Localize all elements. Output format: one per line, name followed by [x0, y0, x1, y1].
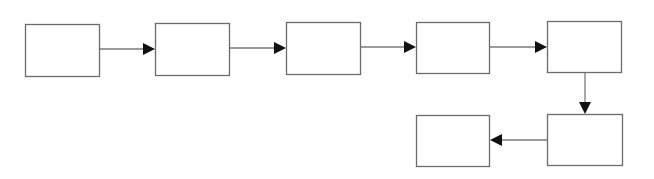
edge-n4-to-n5: [489, 41, 547, 53]
arrow-right-icon: [143, 43, 155, 55]
edge-n5-to-n6: [579, 72, 591, 114]
edge-n3-to-n4: [360, 41, 416, 53]
flowchart-node-n5: [548, 22, 622, 73]
edge-n1-to-n2: [99, 43, 155, 55]
nodes-layer: [26, 22, 623, 167]
arrow-left-icon: [490, 134, 502, 146]
node-box: [26, 25, 100, 77]
edge-n2-to-n3: [229, 42, 286, 54]
edge-n6-to-n7: [490, 134, 547, 146]
flowchart-node-n1: [26, 25, 100, 77]
flowchart-diagram: [0, 0, 654, 179]
flowchart-node-n2: [156, 24, 230, 76]
node-box: [548, 115, 623, 166]
flowchart-node-n6: [548, 115, 623, 166]
node-box: [287, 23, 361, 75]
arrow-right-icon: [535, 41, 547, 53]
arrow-right-icon: [404, 41, 416, 53]
node-box: [156, 24, 230, 76]
arrow-down-icon: [579, 102, 591, 114]
arrow-right-icon: [274, 42, 286, 54]
flowchart-node-n4: [417, 23, 490, 74]
node-box: [548, 22, 622, 73]
node-box: [417, 23, 490, 74]
flowchart-node-n7: [417, 116, 490, 167]
node-box: [417, 116, 490, 167]
flowchart-node-n3: [287, 23, 361, 75]
